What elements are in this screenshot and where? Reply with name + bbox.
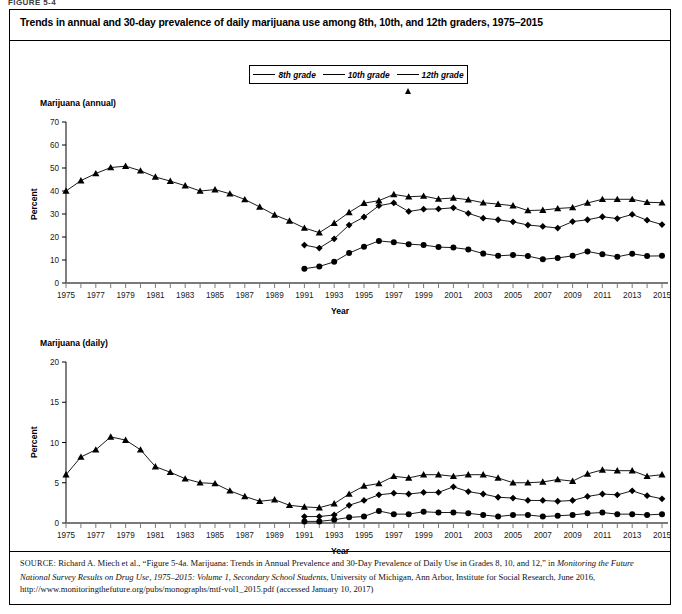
svg-text:0: 0 — [54, 519, 59, 528]
svg-text:10: 10 — [50, 439, 60, 448]
plot-area-daily: 0510152019751977197919811983198519871989… — [0, 0, 682, 560]
source-prefix: SOURCE: — [20, 559, 56, 568]
svg-text:2005: 2005 — [504, 531, 523, 540]
svg-text:2003: 2003 — [474, 531, 493, 540]
svg-text:1979: 1979 — [116, 531, 135, 540]
svg-text:1997: 1997 — [385, 531, 404, 540]
source-note: SOURCE: Richard A. Miech et al., “Figure… — [20, 557, 664, 596]
svg-text:1977: 1977 — [87, 531, 106, 540]
svg-text:1993: 1993 — [325, 531, 344, 540]
svg-text:1987: 1987 — [236, 531, 255, 540]
svg-text:2007: 2007 — [534, 531, 553, 540]
svg-text:2001: 2001 — [444, 531, 463, 540]
source-line1: Richard A. Miech et al., “Figure 5-4a. M… — [56, 558, 557, 568]
svg-text:5: 5 — [54, 479, 59, 488]
svg-text:20: 20 — [50, 358, 60, 367]
svg-text:1983: 1983 — [176, 531, 195, 540]
svg-text:2013: 2013 — [623, 531, 642, 540]
figure-page: FIGURE 5-4 Trends in annual and 30-day p… — [0, 0, 682, 614]
svg-text:2011: 2011 — [594, 531, 612, 540]
svg-text:2009: 2009 — [563, 531, 582, 540]
svg-text:15: 15 — [50, 398, 60, 407]
svg-text:2015: 2015 — [653, 531, 672, 540]
source-divider — [10, 551, 670, 552]
svg-text:1995: 1995 — [355, 531, 374, 540]
svg-text:1975: 1975 — [57, 531, 76, 540]
svg-text:1981: 1981 — [146, 531, 165, 540]
svg-text:1991: 1991 — [295, 531, 314, 540]
svg-text:1985: 1985 — [206, 531, 225, 540]
svg-text:1999: 1999 — [414, 531, 433, 540]
svg-text:1989: 1989 — [265, 531, 284, 540]
